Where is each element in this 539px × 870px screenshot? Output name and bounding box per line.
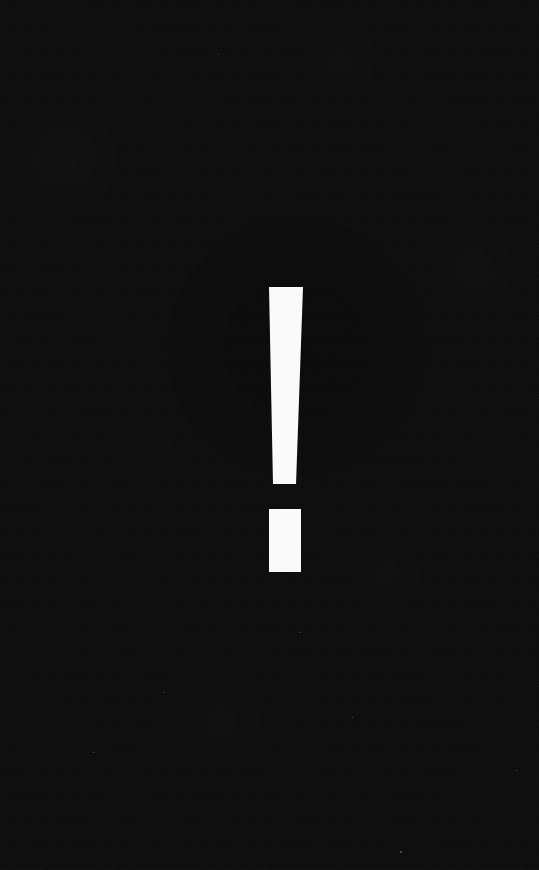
background-fill [0,0,539,870]
screenshot-canvas: Large white exclamation mark on a black … [0,0,539,870]
